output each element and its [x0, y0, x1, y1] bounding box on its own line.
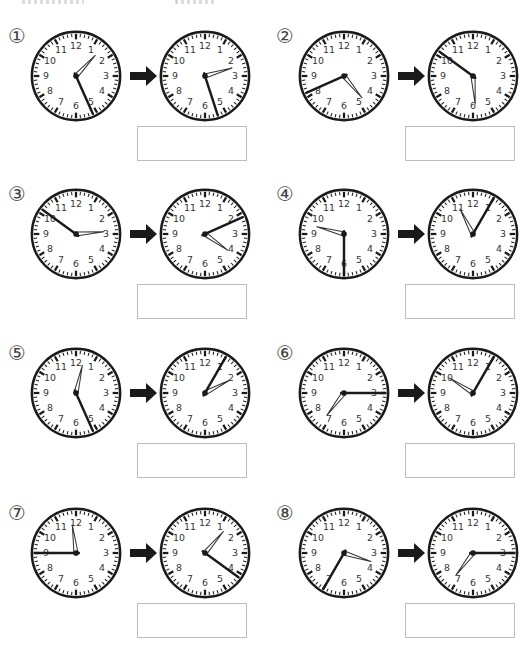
svg-text:9: 9 [43, 228, 49, 239]
svg-text:2: 2 [367, 55, 373, 66]
svg-text:1: 1 [356, 521, 362, 532]
end-clock-icon: 121234567891011 [426, 29, 520, 123]
svg-text:3: 3 [500, 387, 506, 398]
svg-text:4: 4 [496, 85, 502, 96]
svg-text:6: 6 [470, 258, 476, 269]
problem-number: ⑦ [7, 503, 27, 523]
svg-text:10: 10 [173, 213, 185, 224]
svg-text:9: 9 [43, 387, 49, 398]
svg-text:3: 3 [103, 547, 109, 558]
answer-box[interactable] [137, 126, 247, 161]
svg-text:9: 9 [172, 387, 178, 398]
svg-text:10: 10 [44, 372, 56, 383]
start-clock-icon: 121234567891011 [297, 346, 391, 440]
svg-text:5: 5 [356, 254, 362, 265]
svg-text:3: 3 [500, 70, 506, 81]
svg-text:10: 10 [173, 532, 185, 543]
answer-box[interactable] [405, 443, 515, 478]
right-arrow-icon [130, 542, 158, 564]
svg-text:6: 6 [341, 577, 347, 588]
answer-box[interactable] [137, 443, 247, 478]
svg-text:9: 9 [440, 547, 446, 558]
svg-text:12: 12 [199, 40, 211, 51]
svg-text:10: 10 [312, 532, 324, 543]
svg-text:8: 8 [315, 562, 321, 573]
svg-text:8: 8 [444, 562, 450, 573]
svg-text:5: 5 [217, 96, 223, 107]
svg-text:2: 2 [99, 55, 105, 66]
svg-text:8: 8 [176, 85, 182, 96]
end-clock-icon: 121234567891011 [426, 346, 520, 440]
svg-text:9: 9 [311, 387, 317, 398]
answer-box[interactable] [405, 126, 515, 161]
svg-text:1: 1 [88, 44, 94, 55]
svg-text:7: 7 [58, 254, 64, 265]
problem-number: ④ [275, 184, 295, 204]
svg-text:4: 4 [367, 243, 373, 254]
answer-box[interactable] [405, 603, 515, 638]
problem-7: ⑦121234567891011121234567891011 [2, 499, 265, 645]
svg-text:2: 2 [367, 372, 373, 383]
answer-box[interactable] [137, 284, 247, 319]
svg-text:12: 12 [199, 517, 211, 528]
svg-text:6: 6 [341, 100, 347, 111]
svg-text:4: 4 [99, 85, 105, 96]
svg-text:8: 8 [315, 243, 321, 254]
svg-text:2: 2 [228, 372, 234, 383]
svg-text:10: 10 [312, 213, 324, 224]
svg-text:5: 5 [485, 96, 491, 107]
svg-text:11: 11 [184, 521, 196, 532]
problem-8: ⑧121234567891011121234567891011 [270, 499, 527, 645]
svg-text:5: 5 [356, 573, 362, 584]
svg-text:8: 8 [176, 562, 182, 573]
svg-text:12: 12 [467, 357, 479, 368]
svg-text:1: 1 [217, 202, 223, 213]
svg-text:1: 1 [356, 361, 362, 372]
svg-text:11: 11 [55, 44, 67, 55]
start-clock-icon: 121234567891011 [297, 506, 391, 600]
svg-text:12: 12 [338, 517, 350, 528]
svg-text:7: 7 [187, 573, 193, 584]
svg-text:7: 7 [326, 254, 332, 265]
svg-text:8: 8 [47, 243, 53, 254]
answer-box[interactable] [405, 284, 515, 319]
right-arrow-icon [130, 65, 158, 87]
svg-text:5: 5 [356, 96, 362, 107]
problem-3: ③121234567891011121234567891011 [2, 180, 265, 340]
svg-text:7: 7 [455, 254, 461, 265]
svg-text:7: 7 [455, 96, 461, 107]
svg-text:11: 11 [452, 521, 464, 532]
problem-4: ④121234567891011121234567891011 [270, 180, 527, 340]
svg-text:8: 8 [444, 402, 450, 413]
svg-text:5: 5 [485, 573, 491, 584]
problem-5: ⑤121234567891011121234567891011 [2, 339, 265, 499]
right-arrow-icon [398, 382, 426, 404]
svg-text:9: 9 [311, 547, 317, 558]
svg-text:1: 1 [217, 44, 223, 55]
svg-text:9: 9 [172, 228, 178, 239]
problem-number: ⑥ [275, 343, 295, 363]
svg-text:7: 7 [326, 96, 332, 107]
start-clock-icon: 121234567891011 [29, 506, 123, 600]
svg-text:1: 1 [88, 361, 94, 372]
svg-text:1: 1 [217, 521, 223, 532]
svg-text:8: 8 [176, 402, 182, 413]
svg-text:3: 3 [500, 228, 506, 239]
svg-text:7: 7 [58, 573, 64, 584]
header-fragment-right2 [176, 0, 177, 4]
problem-1: ①121234567891011121234567891011 [2, 22, 265, 182]
svg-text:12: 12 [70, 198, 82, 209]
answer-box[interactable] [137, 603, 247, 638]
svg-text:12: 12 [199, 357, 211, 368]
end-clock-icon: 121234567891011 [158, 346, 252, 440]
svg-text:8: 8 [176, 243, 182, 254]
svg-text:12: 12 [338, 198, 350, 209]
svg-text:10: 10 [441, 213, 453, 224]
header-fragment-left [22, 0, 84, 4]
start-clock-icon: 121234567891011 [29, 346, 123, 440]
svg-text:6: 6 [202, 258, 208, 269]
svg-text:12: 12 [70, 357, 82, 368]
svg-text:9: 9 [311, 70, 317, 81]
svg-text:7: 7 [455, 413, 461, 424]
right-arrow-icon [398, 542, 426, 564]
